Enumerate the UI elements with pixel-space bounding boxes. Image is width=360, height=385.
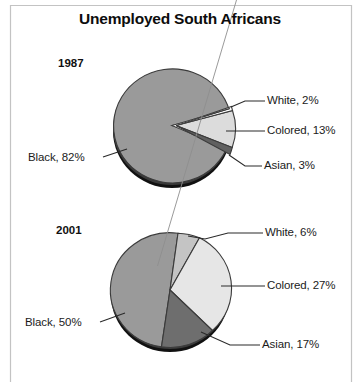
leader-line-1987-white (231, 101, 265, 107)
page-title: Unemployed South Africans (0, 10, 360, 28)
pie-1987 (103, 69, 265, 188)
label-1987-black: Black, 82% (28, 151, 85, 163)
leader-line-2001-white (188, 233, 263, 239)
label-2001-black: Black, 50% (25, 316, 82, 328)
leader-line-1987-asian (229, 155, 262, 166)
year-label-1987: 1987 (58, 57, 84, 69)
label-1987-white: White, 2% (267, 94, 319, 106)
year-label-2001: 2001 (56, 224, 82, 236)
label-1987-colored: Colored, 13% (267, 124, 335, 136)
figure-container: Unemployed South Africans 1987 2001 Blac… (0, 0, 360, 385)
label-2001-asian: Asian, 17% (262, 338, 319, 350)
label-2001-white: White, 6% (265, 226, 317, 238)
label-2001-colored: Colored, 27% (267, 279, 335, 291)
pie-2001 (100, 233, 265, 352)
label-1987-asian: Asian, 3% (264, 159, 315, 171)
